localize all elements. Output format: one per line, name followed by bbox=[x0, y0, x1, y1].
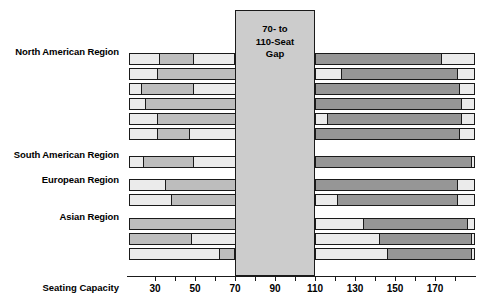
bar-segment bbox=[315, 233, 379, 245]
x-axis-tick bbox=[335, 276, 336, 281]
bar-segment bbox=[379, 233, 471, 245]
bar-segment bbox=[129, 248, 219, 260]
bar-segment-group-right-0 bbox=[315, 53, 475, 65]
x-axis-tick-label: 150 bbox=[375, 283, 415, 294]
bar-segment bbox=[129, 128, 157, 140]
bar-segment bbox=[315, 68, 341, 80]
bar-segment bbox=[315, 194, 337, 206]
x-axis-tick bbox=[155, 276, 156, 281]
bar-segment bbox=[457, 68, 475, 80]
bar-segment bbox=[129, 156, 143, 168]
bar-segment bbox=[387, 248, 471, 260]
x-axis-tick bbox=[315, 276, 316, 281]
bar-segment-group-right-5 bbox=[315, 128, 475, 140]
bar-segment-group-left-11 bbox=[129, 248, 235, 260]
bar-segment bbox=[461, 98, 475, 110]
x-axis-tick bbox=[255, 276, 256, 281]
x-axis-tick bbox=[175, 276, 176, 281]
gap-annotation-text: 70- to 110-Seat Gap bbox=[236, 23, 314, 61]
x-axis-tick bbox=[455, 276, 456, 281]
x-axis-line bbox=[127, 276, 476, 277]
x-axis-tick-label: 30 bbox=[135, 283, 175, 294]
bar-segment-group-right-11 bbox=[315, 248, 475, 260]
bar-segment bbox=[157, 128, 189, 140]
x-axis-tick-label: 110 bbox=[295, 283, 335, 294]
gap-line-3: Gap bbox=[236, 48, 314, 61]
plot-area: 70- to 110-Seat Gap 30507090110130150170 bbox=[0, 0, 487, 301]
x-axis-tick bbox=[215, 276, 216, 281]
bar-segment bbox=[327, 113, 461, 125]
x-axis-tick-label: 130 bbox=[335, 283, 375, 294]
bar-segment bbox=[315, 113, 327, 125]
bar-segment bbox=[129, 233, 191, 245]
bar-segment-group-right-7 bbox=[315, 179, 475, 191]
x-axis-tick-label: 170 bbox=[415, 283, 455, 294]
bar-segment bbox=[315, 128, 459, 140]
bar-segment-group-right-1 bbox=[315, 68, 475, 80]
x-axis-tick bbox=[275, 276, 276, 281]
x-axis-tick bbox=[195, 276, 196, 281]
bar-segment bbox=[467, 218, 475, 230]
x-axis-tick-label: 90 bbox=[255, 283, 295, 294]
bar-segment bbox=[315, 83, 459, 95]
bar-segment-group-left-0 bbox=[129, 53, 235, 65]
bar-segment-group-right-2 bbox=[315, 83, 475, 95]
bar-segment bbox=[143, 156, 193, 168]
x-axis-tick bbox=[435, 276, 436, 281]
bar-segment bbox=[441, 53, 475, 65]
x-axis-tick-label: 50 bbox=[175, 283, 215, 294]
bar-segment-group-right-8 bbox=[315, 194, 475, 206]
bar-segment-group-right-3 bbox=[315, 98, 475, 110]
bar-segment bbox=[471, 233, 475, 245]
bar-segment bbox=[129, 98, 145, 110]
bar-segment bbox=[315, 248, 387, 260]
bar-segment bbox=[461, 113, 475, 125]
bar-segment bbox=[129, 194, 171, 206]
bar-segment bbox=[363, 218, 467, 230]
bar-segment bbox=[129, 68, 157, 80]
gap-line-2: 110-Seat bbox=[236, 36, 314, 49]
x-axis-tick-label: 70 bbox=[215, 283, 255, 294]
x-axis-tick bbox=[355, 276, 356, 281]
bar-segment bbox=[337, 194, 457, 206]
gap-annotation-band: 70- to 110-Seat Gap bbox=[235, 10, 315, 276]
bar-segment bbox=[457, 194, 475, 206]
bar-segment bbox=[219, 248, 235, 260]
x-axis-tick bbox=[395, 276, 396, 281]
bar-segment bbox=[315, 218, 363, 230]
bar-segment bbox=[129, 179, 165, 191]
x-axis-tick bbox=[235, 276, 236, 281]
bar-segment bbox=[315, 179, 457, 191]
bar-segment bbox=[129, 53, 159, 65]
bar-segment bbox=[129, 83, 141, 95]
bar-segment bbox=[471, 156, 475, 168]
bar-segment bbox=[459, 83, 475, 95]
bar-segment-group-right-6 bbox=[315, 156, 475, 168]
bar-segment bbox=[141, 83, 193, 95]
bar-segment bbox=[459, 128, 475, 140]
bar-segment bbox=[159, 53, 193, 65]
bar-segment bbox=[129, 113, 157, 125]
bar-segment bbox=[471, 248, 475, 260]
gap-line-1: 70- to bbox=[236, 23, 314, 36]
seating-capacity-chart: North American Region South American Reg… bbox=[0, 0, 487, 301]
bar-segment bbox=[457, 179, 475, 191]
x-axis-tick bbox=[415, 276, 416, 281]
bar-segment-group-right-10 bbox=[315, 233, 475, 245]
bar-segment-group-right-4 bbox=[315, 113, 475, 125]
bar-segment-group-right-9 bbox=[315, 218, 475, 230]
bar-segment bbox=[315, 53, 441, 65]
bar-segment bbox=[341, 68, 457, 80]
bar-segment bbox=[315, 156, 471, 168]
bar-segment bbox=[193, 53, 235, 65]
x-axis-tick bbox=[295, 276, 296, 281]
bar-segment bbox=[315, 98, 461, 110]
x-axis-tick bbox=[375, 276, 376, 281]
